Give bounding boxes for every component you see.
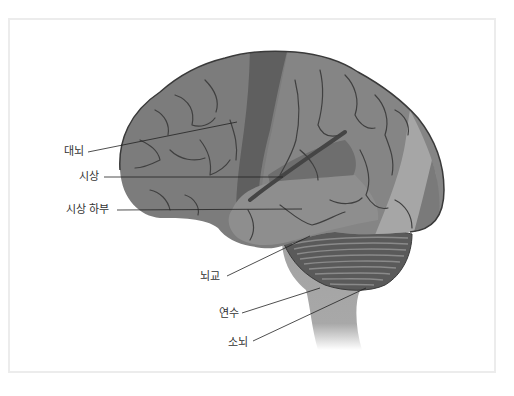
label-thalamus: 시상 xyxy=(79,171,99,183)
brain-illustration xyxy=(0,0,514,396)
label-hypothalamus: 시상 하부 xyxy=(66,204,110,216)
label-medulla: 연수 xyxy=(219,308,239,320)
label-pons: 뇌교 xyxy=(200,271,220,283)
label-cerebrum: 대뇌 xyxy=(64,146,84,158)
label-cerebellum: 소뇌 xyxy=(228,337,248,349)
cerebrum-shape xyxy=(110,40,450,260)
